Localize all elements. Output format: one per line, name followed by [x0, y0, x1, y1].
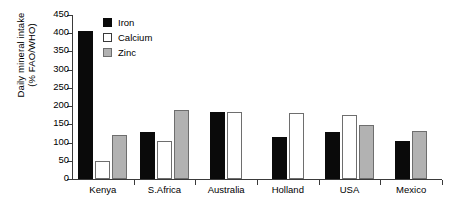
- legend-item-iron: Iron: [103, 16, 152, 29]
- y-axis-title: Daily mineral intake (% FAO/WHO): [9, 0, 43, 131]
- bar-calcium: [157, 141, 172, 179]
- x-axis-labels: KenyaS.AfricaAustraliaHollandUSAMexico: [72, 184, 442, 200]
- legend-label: Calcium: [118, 32, 152, 43]
- legend: IronCalciumZinc: [103, 16, 152, 59]
- bar-calcium: [342, 115, 357, 179]
- y-tick-label: 50: [58, 154, 69, 165]
- x-axis-label: Mexico: [396, 184, 426, 195]
- x-axis-label: USA: [340, 184, 360, 195]
- bar-iron: [272, 137, 287, 179]
- bar-calcium: [289, 113, 304, 179]
- y-tick-label: 250: [53, 81, 69, 92]
- y-tick-label: 150: [53, 117, 69, 128]
- bar-group: [195, 15, 257, 179]
- legend-swatch-iron: [103, 18, 112, 27]
- y-axis-title-line-1: Daily mineral intake: [15, 13, 27, 98]
- x-axis-label: S.Africa: [148, 184, 181, 195]
- bar-iron: [325, 132, 340, 179]
- y-tick-label: 0: [64, 172, 69, 183]
- x-axis-label: Holland: [272, 184, 304, 195]
- bar-calcium: [227, 112, 242, 179]
- legend-label: Zinc: [118, 47, 136, 58]
- y-tick-label: 350: [53, 44, 69, 55]
- y-tick-label: 300: [53, 63, 69, 74]
- x-axis-label: Kenya: [89, 184, 116, 195]
- bar-iron: [395, 141, 410, 179]
- x-tick-mark: [442, 180, 443, 185]
- bar-zinc: [112, 135, 127, 179]
- legend-item-zinc: Zinc: [103, 46, 152, 59]
- bar-zinc: [359, 125, 374, 179]
- legend-swatch-calcium: [103, 33, 112, 42]
- legend-swatch-zinc: [103, 48, 112, 57]
- bar-group: [380, 15, 442, 179]
- bar-calcium: [95, 161, 110, 179]
- bar-group: [257, 15, 319, 179]
- bar-iron: [140, 132, 155, 179]
- y-tick-label: 400: [53, 26, 69, 37]
- y-tick-label: 100: [53, 136, 69, 147]
- y-tick-label: 450: [53, 8, 69, 19]
- bar-group: [319, 15, 381, 179]
- bar-zinc: [174, 110, 189, 179]
- y-axis-title-line-2: (% FAO/WHO): [26, 23, 38, 86]
- legend-item-calcium: Calcium: [103, 31, 152, 44]
- x-axis-label: Australia: [208, 184, 245, 195]
- legend-label: Iron: [118, 17, 134, 28]
- bar-chart-figure: Daily mineral intake (% FAO/WHO) 0501001…: [0, 0, 457, 214]
- bar-zinc: [412, 131, 427, 179]
- bar-iron: [78, 31, 93, 179]
- y-tick-label: 200: [53, 99, 69, 110]
- bar-iron: [210, 112, 225, 179]
